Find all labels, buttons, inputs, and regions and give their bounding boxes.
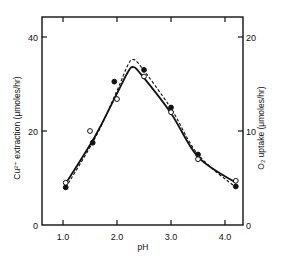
y-axis-left: 02040 <box>28 33 47 231</box>
x-tick-label: 1.0 <box>57 232 70 242</box>
filled-data-point <box>112 79 117 84</box>
x-tick-label: 4.0 <box>219 232 232 242</box>
open-data-point <box>196 157 201 162</box>
open-data-point <box>233 178 238 183</box>
x-tick-label: 3.0 <box>165 232 178 242</box>
open-data-point <box>63 180 68 185</box>
filled-data-point <box>169 105 174 110</box>
y-tick-label-left: 20 <box>28 127 38 137</box>
filled-data-point <box>233 184 238 189</box>
open-data-point <box>142 74 147 79</box>
x-axis: 1.02.03.04.0 <box>57 17 232 242</box>
open-data-point <box>169 110 174 115</box>
y-tick-label-right: 0 <box>246 221 251 231</box>
y-axis-right: 01020 <box>238 33 256 231</box>
y-tick-label-right: 20 <box>246 33 256 43</box>
o2-uptake-curve <box>66 60 236 188</box>
cu-extraction-curve <box>66 67 236 184</box>
y-axis-label-right: O₂ uptake (μmoles/hr) <box>256 86 266 169</box>
y-axis-label-left: Cu²⁺ extraction (μmoles/hr) <box>12 76 22 180</box>
filled-data-point <box>196 152 201 157</box>
y-tick-label-right: 10 <box>246 127 256 137</box>
plot-frame <box>42 17 243 225</box>
x-axis-label: pH <box>138 242 149 252</box>
series-curves <box>66 60 236 188</box>
filled-data-point <box>63 185 68 190</box>
chart: 1.02.03.04.0 02040 01020 pH Cu²⁺ extract… <box>0 0 284 263</box>
filled-data-point <box>90 140 95 145</box>
x-tick-label: 2.0 <box>111 232 124 242</box>
open-data-point <box>115 97 120 102</box>
y-tick-label-left: 0 <box>33 221 38 231</box>
filled-data-point <box>142 68 147 73</box>
open-data-point <box>88 129 93 134</box>
y-tick-label-left: 40 <box>28 33 38 43</box>
